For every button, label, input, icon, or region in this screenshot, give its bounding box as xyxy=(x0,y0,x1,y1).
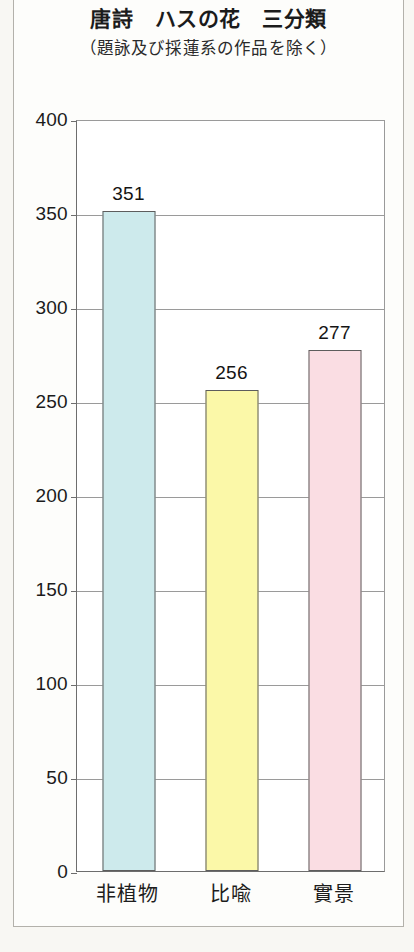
plot-area: 351256277 xyxy=(76,120,385,872)
y-axis-label: 150 xyxy=(4,579,68,601)
y-axis-label: 200 xyxy=(4,485,68,507)
bar-比喩[interactable] xyxy=(205,390,258,871)
y-axis-label: 100 xyxy=(4,673,68,695)
bar-非植物[interactable] xyxy=(102,211,155,871)
bar-value-label: 351 xyxy=(112,183,145,205)
x-axis-labels: 非植物比喩實景 xyxy=(76,878,385,918)
title-block: 唐詩 ハスの花 三分類 （題詠及び採蓮系の作品を除く） xyxy=(13,6,404,59)
y-axis-label: 300 xyxy=(4,297,68,319)
bar-value-label: 256 xyxy=(215,362,248,384)
bar-slot: 351 xyxy=(77,121,180,871)
bar-實景[interactable] xyxy=(308,350,361,871)
y-axis-label: 0 xyxy=(4,861,68,883)
bar-slot: 256 xyxy=(180,121,283,871)
bar-value-label: 277 xyxy=(318,322,351,344)
x-axis-label-比喩: 比喩 xyxy=(179,878,282,907)
chart-title: 唐詩 ハスの花 三分類 xyxy=(13,6,404,32)
x-axis-label-實景: 實景 xyxy=(282,878,385,907)
x-axis-label-非植物: 非植物 xyxy=(76,878,179,907)
y-axis-label: 50 xyxy=(4,767,68,789)
y-axis-tick xyxy=(71,873,77,874)
chart-subtitle: （題詠及び採蓮系の作品を除く） xyxy=(13,35,404,59)
y-axis-label: 400 xyxy=(4,109,68,131)
y-axis-label: 250 xyxy=(4,391,68,413)
y-axis-labels: 050100150200250300350400 xyxy=(0,120,68,872)
bar-slot: 277 xyxy=(283,121,386,871)
y-axis-label: 350 xyxy=(4,203,68,225)
